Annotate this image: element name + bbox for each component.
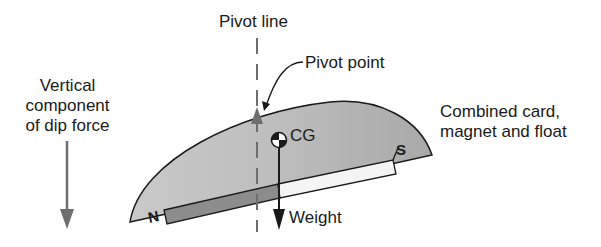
- weight-label: Weight: [289, 208, 342, 227]
- pivot-point-pointer: [266, 62, 303, 106]
- pointer-arrowhead-icon: [262, 101, 270, 111]
- pivot-point-marker: [251, 107, 263, 124]
- combined-label-line2: magnet and float: [440, 122, 567, 141]
- pivot-point-label: Pivot point: [305, 53, 384, 72]
- pivot-line-label: Pivot line: [219, 12, 288, 31]
- vertical-component-label-line1: Vertical: [10, 76, 125, 95]
- cg-label: CG: [290, 126, 316, 145]
- vertical-component-label-line3: of dip force: [10, 116, 125, 135]
- south-pole-label: S: [396, 140, 406, 159]
- vertical-component-label-line2: component: [10, 96, 125, 115]
- weight-arrowhead-icon: [273, 209, 285, 230]
- dip-force-arrowhead-icon: [60, 209, 74, 229]
- cg-symbol-icon: [272, 133, 287, 148]
- combined-label-line1: Combined card,: [440, 102, 560, 121]
